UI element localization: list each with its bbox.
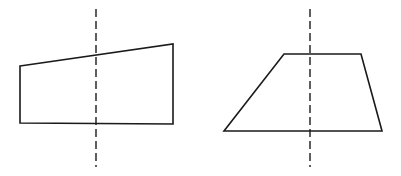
trapezoid-right <box>224 54 382 131</box>
diagram-canvas <box>0 0 401 176</box>
figure-right <box>224 9 382 167</box>
figure-left <box>20 9 173 167</box>
